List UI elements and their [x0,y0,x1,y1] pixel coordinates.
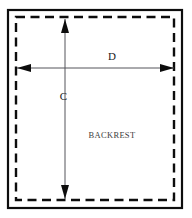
arrowhead-down-icon [61,185,69,199]
part-label-backrest: BACKREST [89,130,136,140]
dimension-label-c: C [60,90,67,102]
inner-dashed-rectangle [16,17,174,200]
dimension-arrow-c: C [60,19,69,199]
diagram-canvas: C D BACKREST [0,0,192,218]
dimension-arrow-d: D [17,50,174,72]
arrowhead-up-icon [61,19,69,33]
outer-frame-rectangle [8,10,182,208]
dimension-label-d: D [108,50,116,62]
backrest-dimension-diagram: C D BACKREST [0,0,192,218]
arrowhead-left-icon [17,64,31,72]
arrowhead-right-icon [160,64,174,72]
